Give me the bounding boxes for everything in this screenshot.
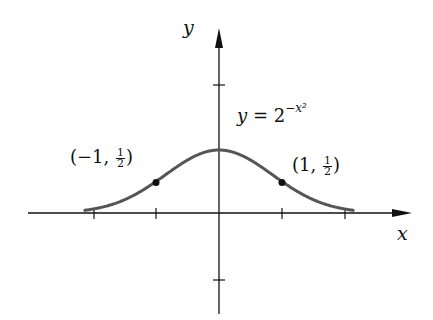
- equation-label: y = 2−x²: [237, 104, 307, 126]
- label-open: (−1,: [70, 146, 115, 167]
- denominator: 2: [116, 159, 125, 169]
- label-close: ): [333, 154, 340, 175]
- fraction-half: 12: [323, 156, 332, 177]
- equation-base: 2: [274, 105, 285, 126]
- fraction-half: 12: [116, 148, 125, 169]
- equation-exponent: −x²: [285, 101, 307, 115]
- figure: y x y = 2−x² (−1, 12) (1, 12): [0, 0, 433, 320]
- point-label-right: (1, 12): [292, 154, 340, 177]
- x-axis-arrow-icon: [392, 209, 412, 217]
- y-axis-arrow-icon: [215, 28, 223, 48]
- equation-eq: =: [253, 105, 268, 126]
- equation-lhs: y: [237, 105, 247, 126]
- label-close: ): [126, 146, 133, 167]
- point-label-left: (−1, 12): [70, 146, 133, 169]
- point-neg1-half: [153, 179, 160, 186]
- point-1-half: [279, 179, 286, 186]
- plot-svg: [0, 0, 433, 320]
- denominator: 2: [323, 167, 332, 177]
- x-axis-label: x: [397, 222, 408, 244]
- label-open: (1,: [292, 154, 322, 175]
- y-axis-label: y: [183, 16, 194, 38]
